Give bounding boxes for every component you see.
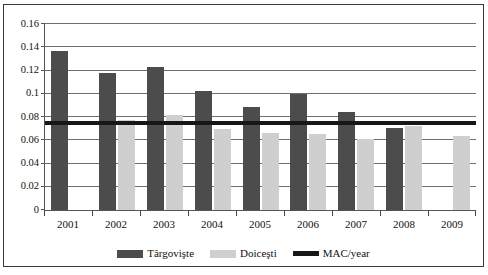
- x-axis-tick-label: 2001: [44, 219, 92, 230]
- legend-label: Târgovişte: [147, 248, 194, 259]
- x-axis-tick-mark: [284, 211, 285, 216]
- bar-group-2004: [189, 24, 237, 210]
- legend-label: Doiceşti: [240, 248, 277, 259]
- x-axis-tick-mark: [332, 211, 333, 216]
- reference-line-mac-per-year: [45, 121, 476, 125]
- x-axis-cell-2007: 2007: [332, 211, 380, 239]
- chart-figure: 00.020.040.060.080.10.120.140.16 2001200…: [0, 0, 488, 275]
- y-axis-tick-label: 0.04: [21, 158, 39, 169]
- y-axis-tick-label: 0.02: [21, 182, 39, 193]
- bar-group-2009: [428, 24, 476, 210]
- bar-group-2006: [284, 24, 332, 210]
- x-axis-tick-mark: [236, 211, 237, 216]
- legend-swatch-icon: [117, 250, 143, 258]
- x-axis-cell-2008: 2008: [380, 211, 428, 239]
- bar-doice-ti-2007: [357, 139, 374, 210]
- x-axis-tick-label: 2008: [380, 219, 428, 230]
- x-axis-cell-2005: 2005: [236, 211, 284, 239]
- bar-doice-ti-2005: [262, 133, 279, 210]
- x-axis-tick-label: 2006: [284, 219, 332, 230]
- x-axis-tick-mark: [44, 211, 45, 216]
- bar-doice-ti-2003: [166, 115, 183, 210]
- bar-t-rgovi-te-2006: [290, 94, 307, 210]
- y-axis-tick-label: 0.08: [21, 112, 39, 123]
- bar-doice-ti-2008: [405, 126, 422, 210]
- x-axis-cell-2004: 2004: [188, 211, 236, 239]
- legend-swatch-icon: [293, 251, 319, 256]
- x-axis-cell-2009: 2009: [428, 211, 476, 239]
- bar-group-2005: [237, 24, 285, 210]
- bar-group-2008: [380, 24, 428, 210]
- x-axis-tick-label: 2003: [140, 219, 188, 230]
- bar-t-rgovi-te-2008: [386, 128, 403, 210]
- legend-item-mac-year: MAC/year: [293, 248, 370, 259]
- x-axis-tick-label: 2005: [236, 219, 284, 230]
- bar-t-rgovi-te-2002: [99, 73, 116, 210]
- legend-item-doice-ti: Doiceşti: [210, 248, 277, 259]
- x-axis-tick-label: 2004: [188, 219, 236, 230]
- plot-area: 00.020.040.060.080.10.120.140.16: [44, 24, 476, 211]
- x-axis-tick-label: 2007: [332, 219, 380, 230]
- legend-item-t-rgovi-te: Târgovişte: [117, 248, 194, 259]
- bar-t-rgovi-te-2004: [195, 91, 212, 210]
- bar-doice-ti-2006: [309, 134, 326, 210]
- y-axis-tick-label: 0.14: [21, 42, 39, 53]
- chart-frame: 00.020.040.060.080.10.120.140.16 2001200…: [3, 4, 484, 267]
- x-axis-cell-2002: 2002: [92, 211, 140, 239]
- bar-group-2003: [141, 24, 189, 210]
- bar-t-rgovi-te-2007: [338, 112, 355, 210]
- y-axis-tick-label: 0.06: [21, 135, 39, 146]
- x-axis-tick-mark: [428, 211, 429, 216]
- chart-legend: TârgovişteDoiceştiMAC/year: [4, 248, 483, 259]
- bar-t-rgovi-te-2001: [51, 51, 68, 210]
- legend-label: MAC/year: [323, 248, 370, 259]
- x-axis-tick-mark: [380, 211, 381, 216]
- x-axis: 200120022003200420052006200720082009: [44, 211, 476, 239]
- x-axis-tick-mark: [140, 211, 141, 216]
- bar-doice-ti-2009: [453, 136, 470, 210]
- bar-group-2002: [93, 24, 141, 210]
- x-axis-tick-label: 2009: [428, 219, 476, 230]
- x-axis-tick-mark: [188, 211, 189, 216]
- bars-group: [45, 24, 476, 210]
- y-axis-tick-label: 0: [34, 205, 39, 216]
- bar-doice-ti-2002: [118, 120, 135, 210]
- x-axis-end-tick: [475, 211, 476, 216]
- legend-swatch-icon: [210, 250, 236, 258]
- y-axis-tick-label: 0.16: [21, 19, 39, 30]
- bar-t-rgovi-te-2003: [147, 67, 164, 210]
- x-axis-cell-2001: 2001: [44, 211, 92, 239]
- x-axis-tick-label: 2002: [92, 219, 140, 230]
- x-axis-cell-2006: 2006: [284, 211, 332, 239]
- y-axis-tick-label: 0.1: [26, 89, 39, 100]
- bar-doice-ti-2004: [214, 129, 231, 210]
- x-axis-cell-2003: 2003: [140, 211, 188, 239]
- y-axis-tick-label: 0.12: [21, 65, 39, 76]
- bar-group-2001: [45, 24, 93, 210]
- x-axis-tick-mark: [92, 211, 93, 216]
- bar-group-2007: [332, 24, 380, 210]
